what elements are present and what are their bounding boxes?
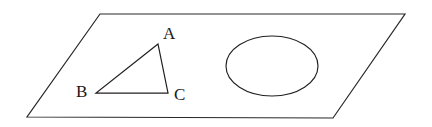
ellipse-shape bbox=[226, 36, 318, 96]
parallelogram-plane bbox=[27, 14, 405, 118]
geometry-figure: A B C bbox=[0, 0, 432, 127]
vertex-label-c: C bbox=[174, 85, 185, 104]
vertex-label-a: A bbox=[163, 24, 176, 43]
geometry-canvas: A B C bbox=[0, 0, 432, 127]
vertex-label-b: B bbox=[76, 82, 87, 101]
